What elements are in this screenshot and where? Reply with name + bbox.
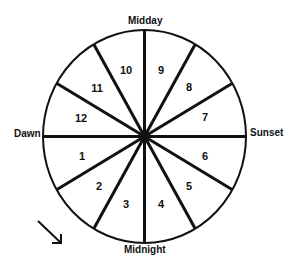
segment-4: 4 xyxy=(158,198,164,210)
segment-9: 9 xyxy=(158,64,164,76)
direction-arrow-icon xyxy=(38,221,61,243)
segment-5: 5 xyxy=(186,180,192,192)
label-dawn: Dawn xyxy=(14,128,41,139)
segment-8: 8 xyxy=(186,81,192,93)
segment-7: 7 xyxy=(202,111,208,123)
segment-11: 11 xyxy=(91,82,103,94)
segment-12: 12 xyxy=(75,112,87,124)
segment-10: 10 xyxy=(120,64,132,76)
segment-2: 2 xyxy=(96,180,102,192)
label-midday: Midday xyxy=(128,15,162,26)
segment-3: 3 xyxy=(123,198,129,210)
segment-6: 6 xyxy=(202,150,208,162)
label-sunset: Sunset xyxy=(250,127,283,138)
spokes xyxy=(43,30,246,243)
label-midnight: Midnight xyxy=(124,244,166,255)
segment-1: 1 xyxy=(79,150,85,162)
